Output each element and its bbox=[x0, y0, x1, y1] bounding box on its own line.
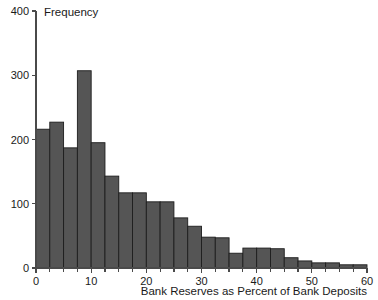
y-tick-label: 100 bbox=[11, 198, 29, 210]
histogram-bar bbox=[133, 193, 147, 268]
y-tick-label: 300 bbox=[11, 69, 29, 81]
histogram-chart: 0100200300400 0102030405060 Frequency Ba… bbox=[0, 0, 378, 300]
histogram-bar bbox=[119, 193, 133, 268]
y-tick-label: 400 bbox=[11, 5, 29, 17]
histogram-plot-area: 0100200300400 0102030405060 Frequency Ba… bbox=[0, 0, 378, 300]
histogram-bar bbox=[160, 202, 174, 268]
x-tick-label: 10 bbox=[85, 275, 97, 287]
histogram-bar bbox=[188, 226, 202, 268]
histogram-bar bbox=[257, 248, 271, 268]
histogram-bar bbox=[50, 122, 64, 268]
y-axis-ticks: 0100200300400 bbox=[11, 5, 36, 274]
histogram-bar bbox=[91, 143, 105, 268]
histogram-bar bbox=[174, 218, 188, 268]
y-axis-title: Frequency bbox=[44, 6, 99, 18]
y-tick-label: 0 bbox=[23, 262, 29, 274]
histogram-bar bbox=[243, 248, 257, 268]
histogram-bar bbox=[215, 238, 229, 268]
x-axis-title: Bank Reserves as Percent of Bank Deposit… bbox=[141, 285, 368, 297]
histogram-bar bbox=[270, 249, 284, 268]
y-tick-label: 200 bbox=[11, 134, 29, 146]
bars-group bbox=[36, 71, 367, 268]
histogram-bar bbox=[146, 202, 160, 268]
histogram-bar bbox=[77, 71, 91, 268]
histogram-bar bbox=[202, 237, 216, 268]
histogram-bar bbox=[326, 263, 340, 268]
x-tick-label: 0 bbox=[33, 275, 39, 287]
histogram-bar bbox=[36, 129, 50, 268]
histogram-bar bbox=[298, 261, 312, 268]
histogram-bar bbox=[105, 176, 119, 268]
histogram-bar bbox=[312, 263, 326, 268]
histogram-bar bbox=[64, 148, 78, 268]
histogram-bar bbox=[229, 253, 243, 268]
histogram-bar bbox=[284, 258, 298, 268]
